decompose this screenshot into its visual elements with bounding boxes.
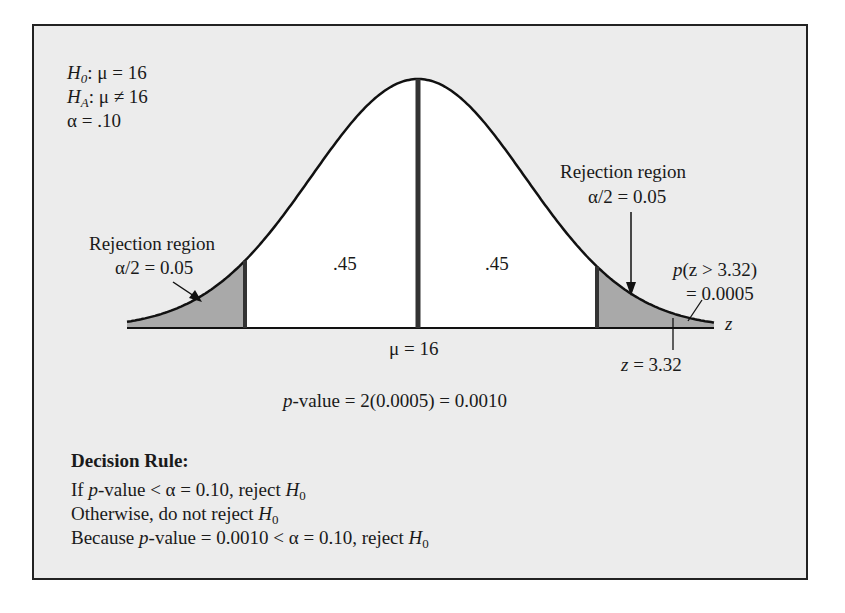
mean-label: μ = 16: [389, 339, 438, 358]
right-arrow-icon: [626, 212, 636, 296]
null-hypothesis: H0: μ = 16: [67, 63, 147, 82]
left-region-value: α/2 = 0.05: [115, 258, 193, 277]
center-area-right: .45: [485, 254, 509, 273]
axis-label: z: [725, 314, 732, 333]
tail-prob-line2: = 0.0005: [686, 284, 754, 303]
decision-line-1: If p-value < α = 0.10, reject H0: [71, 480, 306, 499]
left-region-title: Rejection region: [89, 234, 215, 253]
left-arrow-icon: [173, 282, 202, 302]
right-region-title: Rejection region: [560, 162, 686, 181]
tail-prob-line1: p(z > 3.32): [673, 260, 757, 279]
p-value-formula: p-value = 2(0.0005) = 0.0010: [283, 391, 507, 410]
decision-line-2: Otherwise, do not reject H0: [71, 504, 279, 523]
alternative-hypothesis: HA: μ ≠ 16: [67, 87, 148, 106]
decision-rule-title: Decision Rule:: [71, 451, 189, 470]
center-area-left: .45: [333, 254, 357, 273]
right-region-value: α/2 = 0.05: [588, 187, 666, 206]
z-statistic-label: z = 3.32: [621, 355, 682, 374]
alpha-level: α = .10: [67, 111, 121, 130]
decision-line-3: Because p-value = 0.0010 < α = 0.10, rej…: [71, 528, 429, 547]
